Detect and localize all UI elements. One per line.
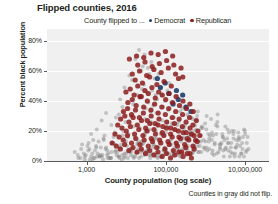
y-tick-label: 40%: [28, 97, 42, 104]
x-axis-title: County population (log scale): [47, 176, 269, 185]
y-tick: [44, 41, 48, 42]
chart-figure: Flipped counties, 2016 County flipped to…: [0, 0, 278, 204]
legend-caption: County flipped to ...: [84, 16, 145, 25]
y-tick: [44, 131, 48, 132]
x-tick: [245, 161, 246, 165]
y-tick-label: 80%: [28, 37, 42, 44]
legend-swatch-democrat: [149, 19, 152, 22]
legend-label-republican: Republican: [196, 16, 232, 25]
series-republican: [110, 49, 203, 161]
y-tick: [44, 161, 48, 162]
y-tick: [44, 101, 48, 102]
y-tick-label: 20%: [28, 127, 42, 134]
y-axis-title: Percent black population: [18, 5, 27, 125]
chart-title: Flipped counties, 2016: [37, 2, 137, 14]
scatter-points: [47, 29, 269, 161]
plot-area: [47, 29, 269, 161]
x-tick-label: 10,000,000: [228, 166, 262, 173]
legend-swatch-republican: [190, 19, 193, 22]
x-tick-label: 1,000: [78, 166, 95, 173]
chart-footnote: Counties in gray did not flip.: [189, 190, 272, 197]
legend-item-democrat[interactable]: Democrat: [149, 16, 185, 25]
legend-label-democrat: Democrat: [154, 16, 185, 25]
x-tick: [87, 161, 88, 165]
x-axis-line: [47, 161, 269, 162]
chart-legend: County flipped to ... Democrat Republica…: [84, 16, 236, 25]
legend-item-republican[interactable]: Republican: [190, 16, 231, 25]
y-tick-label: 0%: [32, 157, 42, 164]
y-tick-label: 60%: [28, 67, 42, 74]
y-tick: [44, 71, 48, 72]
x-tick-label: 100,000: [154, 166, 179, 173]
x-tick: [166, 161, 167, 165]
